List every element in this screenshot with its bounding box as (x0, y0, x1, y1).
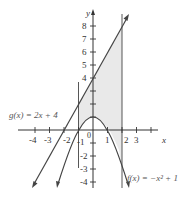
y-tick-label: 8 (82, 22, 87, 31)
x-tick-label: 2 (124, 136, 129, 145)
y-tick-label: -3 (80, 165, 88, 174)
y-axis-label: y (86, 9, 90, 18)
g-arrow-bottom-icon (32, 181, 38, 188)
y-tick-label: 7 (82, 35, 87, 44)
y-tick-label: -4 (80, 178, 88, 187)
f-arrow-left-icon (56, 181, 60, 188)
y-tick-label: 6 (82, 48, 87, 57)
x-tick-label: 1 (105, 136, 110, 145)
x-axis-label: x (162, 136, 166, 145)
x-tick-label: 3 (134, 136, 139, 145)
g-arrow-top-icon (124, 14, 130, 21)
x-tick-label: -2 (63, 136, 71, 145)
f-function-label: f(x) = −x² + 1 (127, 174, 178, 183)
x-tick-label: -3 (44, 136, 52, 145)
y-tick-label: 5 (82, 61, 87, 70)
y-tick-label: -2 (80, 152, 88, 161)
x-tick-label: -1 (77, 138, 85, 147)
g-function-label: g(x) = 2x + 4 (9, 111, 58, 120)
origin-label: 0 (87, 132, 91, 140)
x-tick-label: -4 (29, 136, 37, 145)
y-tick-label: 4 (82, 74, 87, 83)
y-axis-arrow-icon (91, 9, 95, 15)
